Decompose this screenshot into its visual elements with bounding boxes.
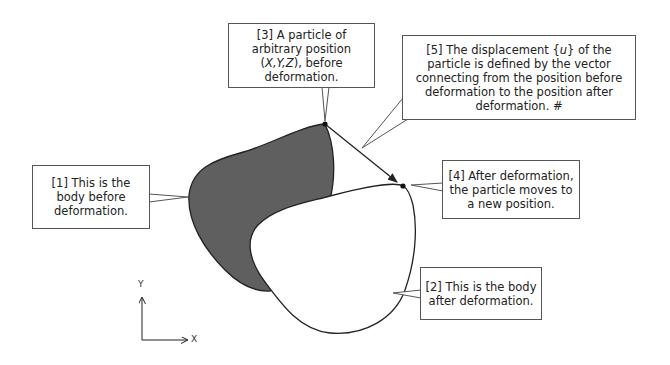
callout-body-before: [1] This is the body before deformation. (32, 165, 150, 229)
callout-5-text: [5] The displacement {u} of the particle… (407, 43, 631, 113)
y-axis-label: Y (138, 279, 144, 289)
callout-4-pointer (411, 183, 443, 191)
callout-displacement: [5] The displacement {u} of the particle… (402, 35, 636, 120)
callout-2-text: [2] This is the body after deformation. (425, 280, 537, 308)
callout-3-text: [3] A particle of arbitrary position (X,… (233, 28, 370, 84)
callout-particle-after: [4] After deformation, the particle move… (442, 160, 580, 219)
callout-body-after: [2] This is the body after deformation. (420, 267, 542, 320)
x-axis-label: X (191, 334, 197, 344)
callout-1-text: [1] This is the body before deformation. (37, 176, 145, 218)
particle-after-point (400, 183, 405, 188)
callout-3-pointer (322, 87, 329, 121)
callout-1-pointer (149, 194, 188, 202)
particle-before-point (322, 121, 327, 126)
callout-4-text: [4] After deformation, the particle move… (447, 169, 575, 211)
callout-particle-before: [3] A particle of arbitrary position (X,… (228, 23, 375, 88)
